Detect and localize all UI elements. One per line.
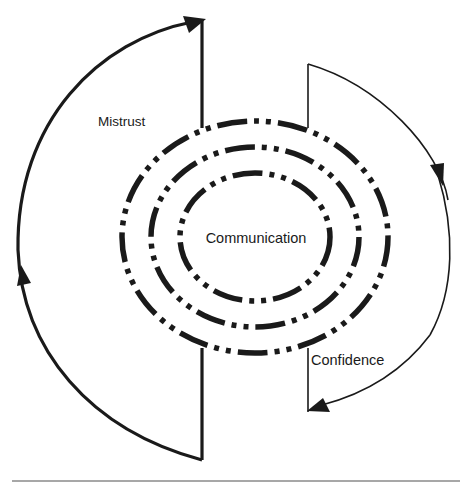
arrowhead-left-icon <box>307 398 330 412</box>
communication-label: Communication <box>206 230 307 246</box>
arrowhead-down-icon <box>430 163 444 186</box>
mistrust-label: Mistrust <box>98 114 145 129</box>
confidence-upper-arc <box>308 64 448 200</box>
communication-cycle-diagram: Mistrust Communication Confidence <box>0 0 467 483</box>
confidence-right-arc <box>430 175 450 335</box>
mistrust-upper-arc <box>18 22 192 250</box>
mistrust-arrow <box>17 16 206 460</box>
mistrust-lower-arc <box>18 250 202 460</box>
confidence-label: Confidence <box>311 352 384 368</box>
confidence-lower-arc <box>322 335 430 405</box>
